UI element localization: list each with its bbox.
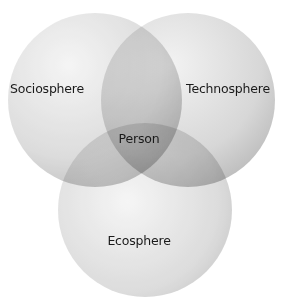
person-label: Person: [119, 131, 160, 146]
technosphere-label: Technosphere: [186, 81, 270, 96]
ecosphere-circle: [58, 123, 232, 297]
venn-diagram: [0, 0, 284, 308]
ecosphere-label: Ecosphere: [107, 233, 170, 248]
sociosphere-label: Sociosphere: [10, 81, 84, 96]
